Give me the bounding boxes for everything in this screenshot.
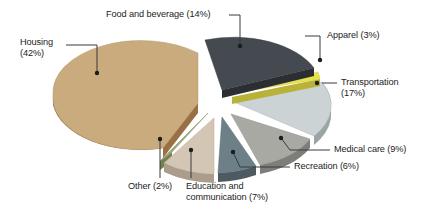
leader-dot-transportation: [315, 81, 319, 85]
leader-dot-medical-care: [279, 136, 283, 140]
label-housing-line2: (42%): [20, 48, 44, 59]
label-medical-care: Medical care (9%): [334, 144, 406, 155]
leader-line-apparel: [305, 36, 320, 60]
leader-dot-education: [189, 148, 193, 152]
leader-dot-apparel: [318, 58, 322, 62]
leader-dot-recreation: [231, 150, 235, 154]
label-transportation-line1: Transportation: [341, 77, 399, 88]
slice-housing[interactable]: [53, 41, 198, 158]
label-apparel: Apparel (3%): [327, 30, 379, 41]
leader-dot-housing: [95, 71, 99, 75]
label-recreation: Recreation (6%): [294, 161, 359, 172]
label-other: Other (2%): [128, 181, 172, 192]
label-education-line2: communication (7%): [186, 192, 268, 203]
leader-dot-other: [158, 137, 162, 141]
label-transportation-line2: (17%): [341, 88, 365, 99]
label-education-line1: Education and: [186, 181, 243, 192]
label-food-and-beverage: Food and beverage (14%): [106, 9, 210, 20]
label-housing-line1: Housing: [20, 37, 53, 48]
leader-dot-food-and-beverage: [238, 44, 242, 48]
pie-chart: Food and beverage (14%) Apparel (3%) Tra…: [0, 0, 429, 214]
